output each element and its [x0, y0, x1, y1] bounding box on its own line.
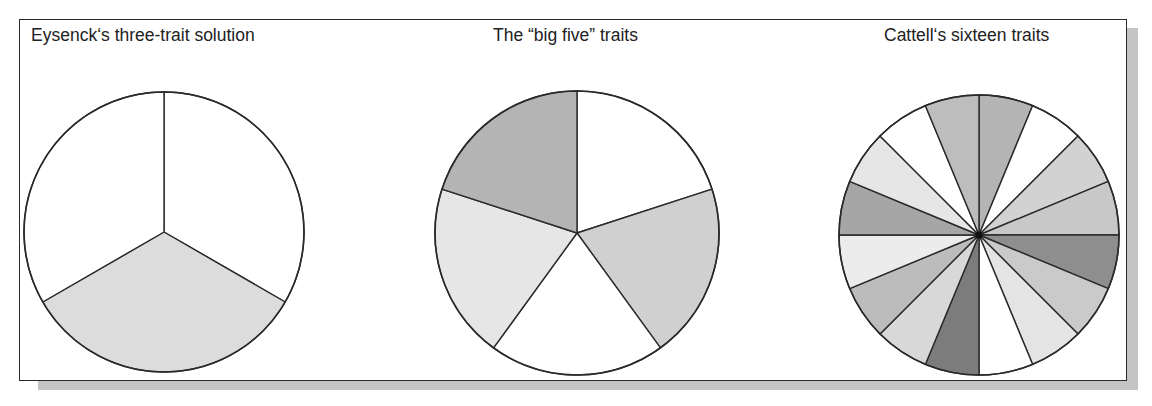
- panel-title-big-five: The “big five” traits: [493, 25, 638, 45]
- pie-center-dot: [976, 232, 983, 239]
- pie-big-five-traits: [435, 91, 719, 375]
- pie-eysenck-three-traits: [24, 92, 304, 372]
- panel-title-eysenck: Eysenck‘s three-trait solution: [31, 25, 255, 45]
- pie-cattell-sixteen-traits: [839, 95, 1119, 375]
- pie-diagrams: [0, 0, 1152, 406]
- panel-title-cattell: Cattell‘s sixteen traits: [884, 25, 1049, 45]
